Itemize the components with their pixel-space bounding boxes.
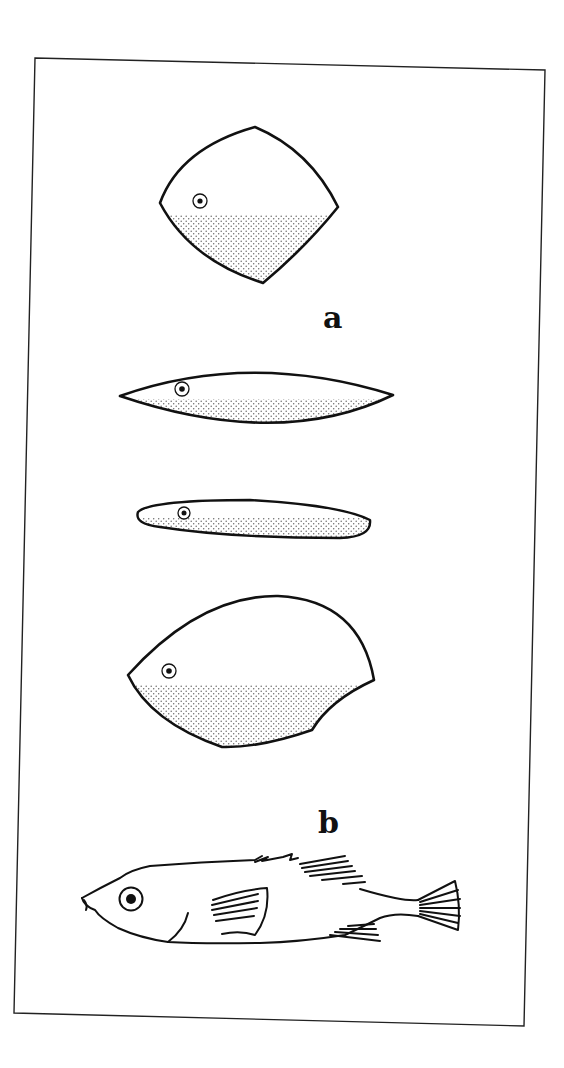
fish-slender xyxy=(130,500,380,543)
figure-canvas xyxy=(0,0,564,1068)
fish-lens xyxy=(115,373,400,439)
eye-icon xyxy=(175,382,189,396)
panel-label-b: b xyxy=(318,808,339,838)
eye-icon xyxy=(120,888,143,911)
eye-icon xyxy=(162,664,176,678)
figure-frame xyxy=(14,58,545,1026)
fish-diamond xyxy=(150,127,350,295)
eye-icon xyxy=(193,194,207,208)
eye-icon xyxy=(178,507,190,519)
panel-label-a: a xyxy=(323,303,342,333)
fish-ovoid xyxy=(120,596,380,755)
stickleback-drawing xyxy=(82,854,460,943)
